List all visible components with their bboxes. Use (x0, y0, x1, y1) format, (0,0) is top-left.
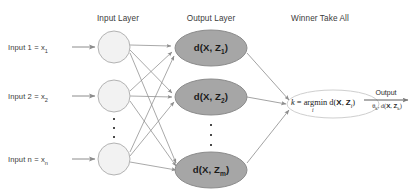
formula-close-paren: ) (352, 98, 355, 107)
winner-take-all-header: Winner Take All (268, 14, 372, 23)
winner-take-all-formula: k = argmin d(X, Zi) (291, 98, 355, 109)
ellipsis-dot (113, 118, 115, 120)
input-vertical-ellipsis (112, 118, 115, 138)
input-2-label: Input 2 = x2 (8, 92, 48, 103)
output-node-m-tail: ) (226, 164, 229, 175)
output-to-wta-edges (247, 53, 289, 163)
input-node-2[interactable] (98, 80, 130, 112)
formula-argmin: argmin (304, 98, 328, 107)
ellipsis-dot (210, 124, 212, 126)
diagram-canvas: Input Layer Output Layer Winner Take All… (0, 0, 414, 195)
input-node-n[interactable] (98, 143, 130, 175)
output-mid: , d( (378, 102, 387, 109)
output-node-1-text: d(X, Z (194, 42, 221, 53)
input-node-1[interactable] (98, 31, 130, 63)
output-node-2-label: d(X, Z2) (175, 91, 247, 104)
input-layer-header: Input Layer (78, 14, 158, 23)
output-node-2-tail: ) (225, 91, 228, 102)
output-close-paren: ) (400, 102, 402, 109)
formula-equals: = (295, 98, 304, 107)
input-n-subscript: n (45, 160, 48, 166)
output-node-m-text: d(X, Z (193, 164, 220, 175)
output-node-2-text: d(X, Z (194, 91, 221, 102)
input-to-output-edges (130, 45, 176, 170)
input-2-subscript: 2 (45, 97, 48, 103)
input-2-text: Input 2 = x (8, 92, 45, 101)
ellipsis-dot (210, 134, 212, 136)
input-1-label: Input 1 = x1 (8, 43, 48, 54)
output-layer-header: Output Layer (167, 14, 255, 23)
input-nodes-group (98, 31, 130, 175)
input-1-subscript: 1 (45, 48, 48, 54)
output-arrow-top-label: Output (364, 89, 408, 96)
argmin-index-label: i (312, 107, 314, 113)
output-node-m-label: d(X, Zm) (175, 164, 247, 177)
output-arrow-bottom-label: θk, d(X, Zk) (362, 102, 412, 111)
output-node-1-label: d(X, Z1) (175, 42, 247, 55)
input-feed-arrows (72, 47, 95, 159)
ellipsis-dot (113, 127, 115, 129)
input-n-label: Input n = xn (8, 155, 48, 166)
input-1-text: Input 1 = x (8, 43, 45, 52)
output-node-1-tail: ) (225, 42, 228, 53)
ellipsis-dot (113, 136, 115, 138)
ellipsis-dot (210, 144, 212, 146)
formula-d: d( (327, 98, 336, 107)
input-n-text: Input n = x (8, 155, 45, 164)
output-vertical-ellipsis (209, 124, 212, 146)
